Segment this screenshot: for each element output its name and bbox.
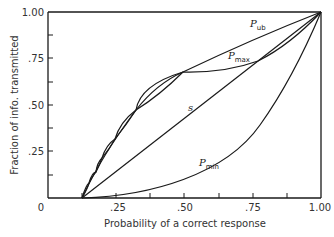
x-axis-title: Probability of a correct response [104,218,266,229]
chart: 1.00 .75 .50 .25 0 .25 .50 .75 1.00 Prob… [0,0,334,237]
x-tick-label-0: 0 [38,202,44,213]
y-tick-label-050: .50 [28,100,44,111]
x-tick-label-100: 1.00 [309,202,331,213]
y-tick-label-025: .25 [28,146,44,157]
curve-s [82,12,321,198]
label-p-max: Pmax [227,50,250,64]
x-tick-label-075: .75 [245,202,261,213]
y-tick-label-075: .75 [28,53,44,64]
x-tick-label-025: .25 [110,202,126,213]
label-p-min: Pmin [198,157,219,171]
y-ticks [48,35,53,175]
y-axis-title: Fraction of info. transmitted [9,35,20,174]
curve-p-max-inner [82,72,183,198]
y-tick-label-1: 1.00 [22,7,44,18]
plot-frame [48,12,321,198]
label-p-ub: Pub [249,18,266,32]
label-s: s [188,102,193,113]
x-tick-label-050: .50 [177,202,193,213]
